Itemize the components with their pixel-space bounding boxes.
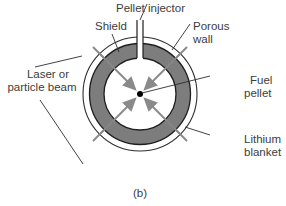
label-laser-line1: Laser or [13,68,83,81]
fuel-pellet [137,91,143,97]
label-fuel-pellet-line1: Fuel [250,74,272,87]
figure-caption: (b) [133,187,147,200]
leader-lithium-blanket [185,127,210,135]
leader-laser-upper [35,56,82,67]
label-porous-wall-line2: wall [193,33,213,46]
label-lithium-blanket-line1: Lithium [244,133,281,146]
label-fuel-pellet-line2: pellet [244,87,272,100]
label-lithium-blanket-line2: blanket [244,146,281,159]
leader-porous-wall [172,24,190,50]
label-porous-wall-line1: Porous [193,20,229,33]
label-laser-line2: particle beam [2,81,82,94]
label-pellet-injector: Pellet injector [116,2,185,15]
label-shield: Shield [95,20,127,33]
injector-gap [137,30,143,60]
fusion-reactor-diagram [0,0,286,206]
leader-laser-lower [40,100,83,164]
